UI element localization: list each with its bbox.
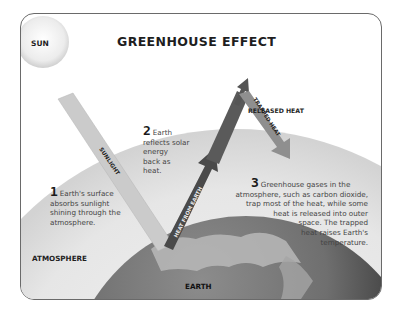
step-2: 2Earth reflects solar energy back as hea… bbox=[143, 126, 205, 176]
step-1: 1Earth's surface absorbs sunlight shinin… bbox=[50, 187, 132, 227]
step-2-number: 2 bbox=[143, 123, 151, 138]
step-3: 3Greenhouse gases in the atmosphere, suc… bbox=[219, 178, 368, 247]
step-3-number: 3 bbox=[251, 175, 259, 190]
sun-label: SUN bbox=[31, 39, 49, 48]
step-1-number: 1 bbox=[50, 184, 58, 199]
released-heat-label: RELEASED HEAT bbox=[248, 107, 304, 114]
diagram-frame: SUNLIGHT HEAT FROM EARTH TRAPPED HEAT SU… bbox=[20, 13, 382, 300]
diagram-title: GREENHOUSE EFFECT bbox=[117, 34, 276, 49]
atmosphere-label: ATMOSPHERE bbox=[32, 254, 87, 263]
earth-label: EARTH bbox=[185, 282, 212, 291]
